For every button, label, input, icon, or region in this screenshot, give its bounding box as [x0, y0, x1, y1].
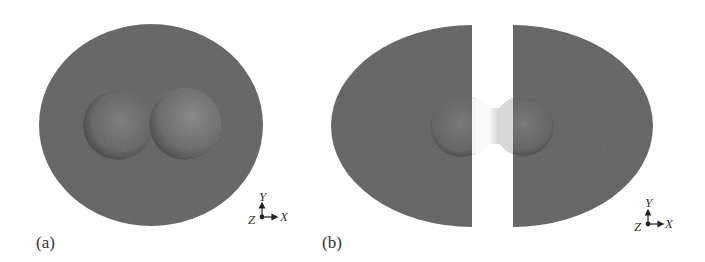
panel-label-b: (b): [322, 233, 342, 253]
panel-a: (a) Y Z X: [0, 0, 320, 262]
panel-label-a: (a): [36, 233, 55, 253]
axis-label-y: Y: [259, 189, 266, 205]
axis-label-z: Z: [634, 219, 641, 235]
axis-label-z: Z: [248, 212, 255, 228]
axis-label-x: X: [665, 216, 673, 232]
axis-label-y: Y: [645, 195, 652, 211]
axis-label-x: X: [280, 209, 288, 225]
panel-b: (b) Y Z X: [320, 0, 705, 262]
